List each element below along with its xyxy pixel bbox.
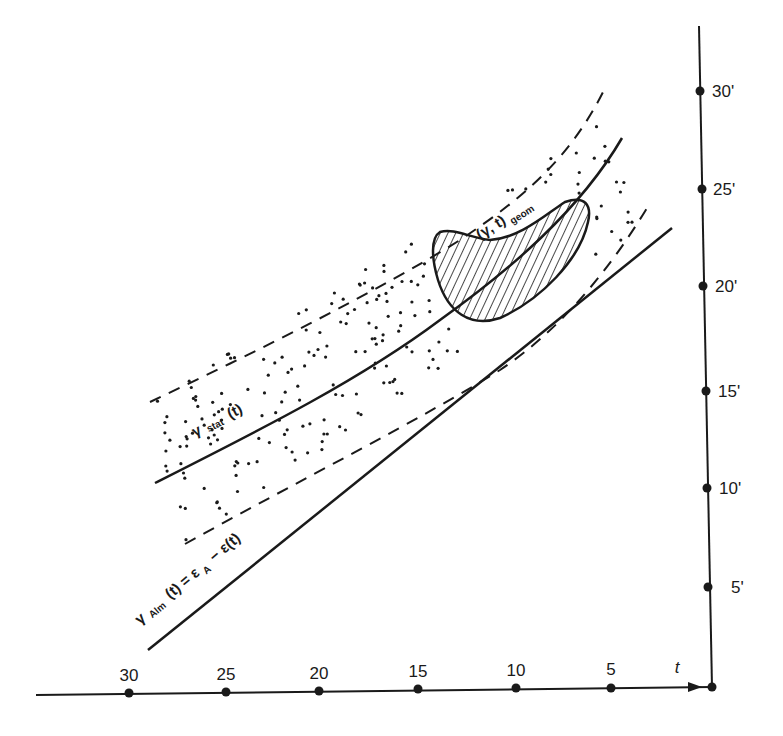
diagram-canvas: 30 25 20 15 10 5 t 5' 10' 15' 20' 25' 30… [0,0,783,736]
y-tick-10: 10' [719,479,741,498]
x-tick-30: 30 [120,666,139,685]
gamma-stat-curve [155,138,622,483]
y-tick-20: 20' [715,277,737,296]
svg-text:γ Alm (t) = ε: γ Alm (t) = ε A − ε(t) [131,529,246,630]
y-tick-15: 15' [718,382,740,401]
x-tick-15: 15 [409,662,428,681]
x-tick-5: 5 [606,660,615,679]
lower-dashed-boundary [185,203,650,544]
x-tick-20: 20 [310,664,329,683]
y-tick-5: 5' [731,578,744,597]
y-tick-25: 25' [713,180,735,199]
band-dots [156,125,634,541]
x-tick-25: 25 [217,665,236,684]
x-tick-10: 10 [507,661,526,680]
y-axis-ticks [696,87,713,592]
gamma-alm-line [148,228,672,650]
y-tick-30: 30' [712,82,734,101]
origin-point [708,683,717,692]
x-axis-label: t [675,658,681,677]
x-axis-arrow-icon [688,682,702,692]
gamma-alm-label: γ Alm (t) = ε A − ε(t) [131,529,246,630]
